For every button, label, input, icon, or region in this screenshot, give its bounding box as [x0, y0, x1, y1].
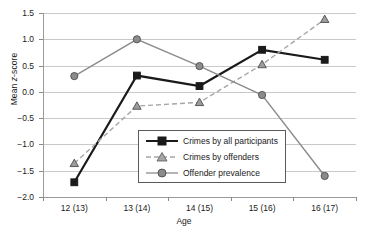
y-tick-label: 1.5	[10, 9, 34, 17]
data-point-circle[interactable]	[133, 36, 140, 43]
chart-container: Mean z-score 1.51.00.50.0−0.5−1.0−1.5−2.…	[0, 0, 368, 233]
x-tick-label: 16 (17)	[293, 203, 357, 213]
legend-label-2: Offender prevalence	[183, 168, 260, 178]
x-tick-mark	[356, 197, 357, 201]
x-tick-label: 15 (16)	[230, 203, 294, 213]
y-tick-label: 0.5	[10, 62, 34, 70]
y-tick-label: −1.5	[10, 167, 34, 175]
data-point-square[interactable]	[134, 72, 141, 79]
legend-key-circle-icon	[145, 166, 179, 180]
x-tick-mark	[168, 197, 169, 201]
x-tick-mark	[43, 197, 44, 201]
y-axis-title: Mean z-score	[9, 39, 19, 119]
x-tick-label: 12 (13)	[42, 203, 106, 213]
legend-item-1[interactable]: Crimes by offenders	[139, 149, 285, 165]
legend-key-square-icon	[145, 134, 179, 148]
x-tick-label: 14 (15)	[168, 203, 232, 213]
data-point-square[interactable]	[321, 56, 328, 63]
legend-item-0[interactable]: Crimes by all participants	[139, 133, 285, 149]
x-tick-mark	[293, 197, 294, 201]
data-point-circle[interactable]	[321, 172, 328, 179]
x-axis-line	[43, 197, 357, 198]
y-tick-label: −2.0	[10, 193, 34, 201]
y-tick-label: 1.0	[10, 35, 34, 43]
data-point-circle[interactable]	[71, 72, 78, 79]
legend-item-2[interactable]: Offender prevalence	[139, 165, 285, 181]
y-tick-label: 0.0	[10, 88, 34, 96]
data-point-circle[interactable]	[196, 62, 203, 69]
legend-key-triangle-icon	[145, 150, 179, 164]
y-tick-label: −1.0	[10, 140, 34, 148]
data-point-circle[interactable]	[259, 91, 266, 98]
x-tick-mark	[106, 197, 107, 201]
x-tick-mark	[231, 197, 232, 201]
x-axis-title: Age	[0, 216, 368, 226]
y-axis-title-italic: z	[9, 77, 19, 81]
data-point-square[interactable]	[196, 83, 203, 90]
chart-legend: Crimes by all participants Crimes by off…	[138, 130, 286, 183]
legend-label-1: Crimes by offenders	[183, 152, 259, 162]
data-point-triangle[interactable]	[321, 15, 329, 22]
data-point-triangle[interactable]	[133, 102, 141, 109]
data-point-square[interactable]	[259, 46, 266, 53]
data-point-square[interactable]	[71, 179, 78, 186]
data-point-triangle[interactable]	[258, 60, 266, 67]
x-tick-label: 13 (14)	[105, 203, 169, 213]
y-tick-label: −0.5	[10, 114, 34, 122]
legend-label-0: Crimes by all participants	[183, 136, 278, 146]
